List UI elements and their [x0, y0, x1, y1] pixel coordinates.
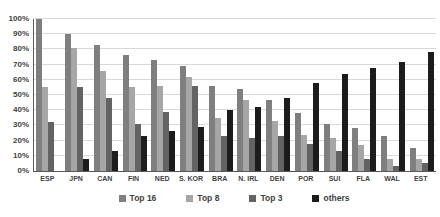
legend-swatch-icon [186, 195, 193, 202]
y-axis-label: 10% [0, 151, 29, 161]
bar-chart: 0%10%20%30%40%50%60%70%80%90%100% ESPJPN… [0, 0, 440, 217]
x-axis-label: FLA [349, 175, 378, 182]
plot-area [33, 19, 436, 172]
bar-group-s-kor [178, 19, 207, 171]
x-axis: ESPJPNCANFINNEDS. KORBRAN. IRLDENPORSUIF… [33, 175, 435, 182]
bar-group-den [264, 19, 293, 171]
y-axis-label: 100% [0, 14, 29, 24]
x-axis-label: CAN [90, 175, 119, 182]
bar-group-can [91, 19, 120, 171]
bar-others [141, 136, 147, 171]
bar-others [83, 159, 89, 171]
bar-others [198, 127, 204, 171]
x-axis-label: BRA [205, 175, 234, 182]
bars-container [34, 19, 436, 171]
y-axis-label: 70% [0, 60, 29, 70]
y-axis-label: 40% [0, 105, 29, 115]
y-axis-label: 90% [0, 29, 29, 39]
bar-others [370, 68, 376, 171]
legend-item-top-16: Top 16 [119, 193, 157, 203]
x-axis-label: ESP [33, 175, 62, 182]
x-axis-label: SUI [320, 175, 349, 182]
x-axis-label: EST [406, 175, 435, 182]
legend-item-top-3: Top 3 [249, 193, 282, 203]
bar-others [342, 74, 348, 171]
legend-item-top-8: Top 8 [186, 193, 219, 203]
y-axis-label: 20% [0, 136, 29, 146]
x-axis-label: JPN [62, 175, 91, 182]
legend-label: Top 8 [197, 193, 219, 203]
bar-group-sui [321, 19, 350, 171]
x-axis-label: N. IRL [234, 175, 263, 182]
legend-label: Top 3 [260, 193, 282, 203]
x-axis-label: FIN [119, 175, 148, 182]
bar-group-por [292, 19, 321, 171]
bar-others [227, 110, 233, 171]
bar-group-jpn [63, 19, 92, 171]
x-axis-label: POR [291, 175, 320, 182]
legend: Top 16Top 8Top 3others [33, 193, 435, 203]
y-axis-label: 60% [0, 75, 29, 85]
y-axis-label: 80% [0, 44, 29, 54]
x-axis-label: DEN [263, 175, 292, 182]
bar-others [313, 83, 319, 171]
bar-group-ned [149, 19, 178, 171]
legend-item-others: others [312, 193, 349, 203]
bar-group-n-irl [235, 19, 264, 171]
bar-others [428, 52, 434, 171]
legend-label: others [323, 193, 349, 203]
bar-others [284, 98, 290, 171]
bar-others [399, 62, 405, 171]
bar-group-esp [34, 19, 63, 171]
bar-group-fin [120, 19, 149, 171]
legend-label: Top 16 [130, 193, 157, 203]
y-axis-label: 0% [0, 166, 29, 176]
x-axis-label: S. KOR [177, 175, 206, 182]
y-axis-label: 30% [0, 120, 29, 130]
bar-group-fla [350, 19, 379, 171]
legend-swatch-icon [119, 195, 126, 202]
x-axis-label: NED [148, 175, 177, 182]
legend-swatch-icon [249, 195, 256, 202]
y-axis-label: 50% [0, 90, 29, 100]
bar-others [255, 107, 261, 171]
bar-group-wal [379, 19, 408, 171]
x-axis-label: WAL [378, 175, 407, 182]
bar-group-est [407, 19, 436, 171]
bar-others [169, 131, 175, 171]
bar-group-bra [206, 19, 235, 171]
bar-others [112, 151, 118, 171]
bar-top-3 [48, 122, 54, 171]
legend-swatch-icon [312, 195, 319, 202]
